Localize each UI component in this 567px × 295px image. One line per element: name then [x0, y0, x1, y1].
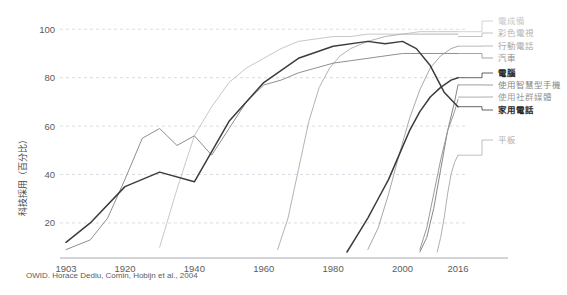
chart-canvas: 20406080100 1903192019401960198020002016…: [0, 0, 567, 295]
legend-item-label[interactable]: 電成備: [498, 16, 525, 26]
series-line: [66, 53, 458, 249]
legend-item-label[interactable]: 平板: [498, 135, 516, 145]
series-line: [160, 32, 458, 247]
legend-item-label[interactable]: 行動電話: [498, 41, 534, 51]
technology-adoption-chart: 20406080100 1903192019401960198020002016…: [0, 0, 567, 295]
x-tick-label: 2016: [447, 263, 468, 274]
legend-leader-lines: [458, 21, 493, 155]
legend-item-label[interactable]: 彩色電視: [498, 28, 534, 38]
source-note: OWID. Horace Dediu, Comin, Hobijn et al.…: [26, 271, 198, 280]
y-tick-label: 60: [44, 121, 55, 132]
x-tick-label: 2000: [392, 263, 413, 274]
series-lines-group: [66, 32, 458, 252]
y-tick-label: 80: [44, 72, 55, 83]
y-tick-label: 100: [39, 24, 55, 35]
legend-leader-line: [458, 21, 493, 32]
legend-group: 電成備彩色電視行動電話汽車電腦使用智慧型手機使用社群媒體家用電話平板: [498, 16, 561, 145]
y-tick-label: 40: [44, 169, 55, 180]
y-axis-tick-labels: 20406080100: [39, 24, 55, 229]
legend-leader-line: [458, 107, 493, 110]
y-axis-title: 科技採用（百分比）: [17, 135, 28, 216]
legend-leader-line: [458, 73, 493, 78]
legend-item-label[interactable]: 使用社群媒體: [498, 92, 552, 102]
series-line: [66, 41, 458, 242]
y-tick-label: 20: [44, 217, 55, 228]
x-tick-label: 1980: [323, 263, 344, 274]
x-tick-label: 1960: [253, 263, 274, 274]
legend-leader-line: [458, 140, 493, 155]
legend-leader-line: [458, 54, 493, 59]
legend-item-label[interactable]: 汽車: [498, 53, 516, 63]
legend-item-label[interactable]: 電腦: [498, 68, 516, 78]
legend-leader-line: [458, 33, 493, 37]
legend-item-label[interactable]: 家用電話: [498, 105, 534, 115]
legend-item-label[interactable]: 使用智慧型手機: [498, 80, 561, 90]
